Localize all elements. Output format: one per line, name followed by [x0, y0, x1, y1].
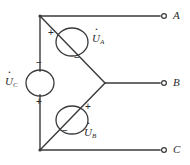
polarity-plus-ua: +: [48, 28, 54, 38]
source-symbol-text-uc: U: [5, 76, 13, 87]
polarity-minus-ub: −: [62, 126, 68, 136]
circuit-diagram: A B C UA + − UB + − UC − +: [0, 0, 190, 165]
source-symbol-ua: [56, 28, 88, 56]
terminal-circle-b[interactable]: [162, 81, 167, 86]
polarity-minus-uc: −: [36, 58, 42, 68]
source-label-ua: UA: [92, 33, 104, 46]
source-label-uc: UC: [5, 76, 18, 89]
terminal-label-c: C: [173, 144, 180, 155]
node-dot-top-left: [38, 14, 41, 17]
terminal-label-a: A: [173, 10, 180, 21]
source-symbol-text-ub: U: [84, 127, 92, 138]
source-symbol-uc: [26, 70, 54, 96]
terminal-circle-c[interactable]: [162, 148, 167, 153]
terminal-label-b: B: [173, 77, 180, 88]
polarity-minus-ua: −: [74, 53, 80, 63]
source-label-ub: UB: [84, 127, 96, 140]
source-subscript-ub: B: [92, 132, 96, 140]
node-dot-bottom-left: [38, 148, 41, 151]
terminal-circle-a[interactable]: [162, 14, 167, 19]
source-subscript-uc: C: [13, 81, 18, 89]
polarity-plus-uc: +: [36, 97, 42, 107]
source-subscript-ua: A: [100, 38, 104, 46]
polarity-plus-ub: +: [85, 102, 91, 112]
source-symbol-text-ua: U: [92, 33, 100, 44]
